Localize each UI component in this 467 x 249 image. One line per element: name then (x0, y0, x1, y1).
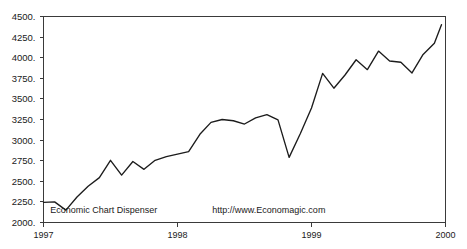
y-tick-label: 4000. (12, 52, 36, 63)
y-tick-label: 2000. (12, 217, 36, 228)
y-tick-label: 4500. (12, 11, 36, 22)
x-tick-label: 1998 (167, 230, 187, 240)
y-tick-label: 3000. (12, 135, 36, 146)
y-tick-label: 2250. (12, 196, 36, 207)
source-url: http://www.Economagic.com (212, 205, 325, 215)
x-tick-label: 1997 (33, 230, 53, 240)
chart-figure: 2000.2250.2500.2750.3000.3250.3500.3750.… (0, 0, 467, 249)
source-credit: Economic Chart Dispenser (50, 205, 157, 215)
line-chart: 2000.2250.2500.2750.3000.3250.3500.3750.… (0, 0, 467, 249)
x-tick-label: 2000 (435, 230, 455, 240)
y-tick-label: 2500. (12, 176, 36, 187)
y-tick-label: 3250. (12, 114, 36, 125)
x-tick-label: 1999 (301, 230, 321, 240)
y-tick-label: 2750. (12, 155, 36, 166)
y-tick-label: 4250. (12, 32, 36, 43)
y-tick-label: 3750. (12, 73, 36, 84)
y-tick-label: 3500. (12, 93, 36, 104)
